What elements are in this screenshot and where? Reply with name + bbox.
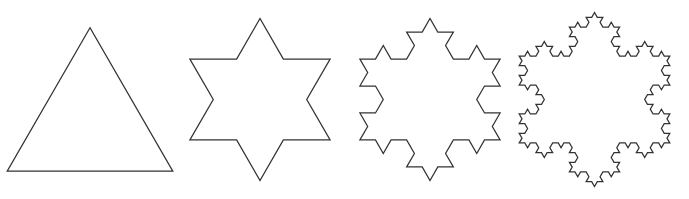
koch-outline-iteration-2 — [360, 19, 500, 181]
koch-shape-panel-3 — [500, 0, 689, 199]
koch-shape-panel-2 — [342, 0, 518, 199]
koch-outline-iteration-0 — [7, 28, 173, 171]
koch-svg-iteration-3 — [500, 0, 689, 199]
koch-svg-iteration-1 — [172, 0, 348, 199]
koch-outline-iteration-3 — [519, 13, 670, 187]
koch-outline-iteration-1 — [190, 19, 330, 181]
koch-svg-iteration-2 — [342, 0, 518, 199]
koch-figure-canvas — [0, 0, 689, 199]
koch-shape-panel-0 — [0, 0, 180, 199]
koch-shape-panel-1 — [172, 0, 348, 199]
koch-svg-iteration-0 — [0, 0, 180, 199]
